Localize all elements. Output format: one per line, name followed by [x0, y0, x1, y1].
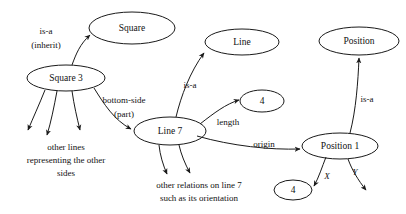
node-four-x-label: 4: [291, 185, 296, 195]
node-line7-label: Line 7: [158, 126, 183, 136]
semantic-network-diagram: Square Square 3 Line Position Line 7 4: [0, 0, 406, 214]
node-four-length[interactable]: 4: [240, 90, 284, 112]
edge-label-y: Y: [352, 167, 358, 177]
edge-line7-other-relation-1: [159, 145, 167, 174]
edge-label-length: length: [217, 117, 240, 127]
edge-square3-other-line-2: [47, 91, 57, 135]
edge-square3-to-square: [72, 35, 90, 65]
node-layer: Square Square 3 Line Position Line 7 4: [27, 12, 399, 200]
node-square[interactable]: Square: [89, 12, 175, 44]
node-square3-label: Square 3: [49, 73, 83, 83]
edge-label-x: X: [323, 171, 330, 181]
diagram-canvas: Square Square 3 Line Position Line 7 4: [0, 0, 406, 214]
node-four-length-label: 4: [260, 96, 265, 106]
note-other-lines-line2: representing the other: [27, 155, 105, 165]
edge-square3-other-line-1: [28, 90, 45, 130]
node-position[interactable]: Position: [319, 27, 399, 55]
edge-position1-to-position: [350, 58, 359, 133]
node-square3[interactable]: Square 3: [27, 65, 105, 91]
edge-label-bottom-side-line2: (part): [114, 109, 134, 119]
node-position-label: Position: [343, 36, 374, 46]
edge-label-bottom-side-line1: bottom-side: [103, 95, 146, 105]
node-line7[interactable]: Line 7: [134, 117, 206, 145]
node-line[interactable]: Line: [205, 29, 279, 55]
note-other-relations-line2: such as its orientation: [160, 193, 239, 203]
edge-label-origin: origin: [253, 139, 275, 149]
note-other-lines-line3: sides: [57, 168, 75, 178]
node-position1-label: Position 1: [321, 141, 360, 151]
node-line-label: Line: [233, 37, 250, 47]
edge-line7-other-relation-2: [179, 145, 190, 173]
note-other-relations-line1: other relations on line 7: [156, 180, 242, 190]
edge-square3-other-line-3: [72, 91, 80, 130]
note-other-lines-line1: other lines: [47, 142, 85, 152]
edge-line7-to-position1-origin: [197, 136, 300, 149]
node-four-x[interactable]: 4: [274, 180, 312, 200]
edge-layer: [28, 35, 366, 190]
note-other-relations: other relations on line 7 such as its or…: [156, 180, 242, 203]
edge-label-isa-line: is-a: [184, 80, 197, 90]
node-position1[interactable]: Position 1: [302, 133, 378, 159]
note-other-lines: other lines representing the other sides: [27, 142, 105, 178]
edge-label-isa-inherit-line2: (inherit): [31, 40, 61, 50]
edge-label-isa-inherit-line1: is-a: [40, 26, 53, 36]
edge-label-isa-position: is-a: [361, 94, 374, 104]
node-square-label: Square: [119, 23, 145, 33]
note-layer: other lines representing the other sides…: [27, 142, 242, 203]
